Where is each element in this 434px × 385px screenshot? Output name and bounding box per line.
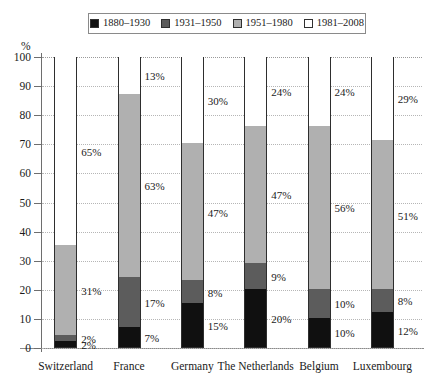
bar-segment-value-label: 13% [145,70,165,82]
y-axis-tick [34,290,41,291]
gridline [42,261,422,262]
gridline [42,86,422,87]
bar-segment[interactable] [182,280,203,303]
y-axis-tick-label: 20 [20,284,32,296]
bar-group: 20%9%47%24%The Netherlands [244,57,267,348]
y-axis-tick [34,348,41,349]
bar-segment[interactable] [119,277,140,326]
bar-segment[interactable] [372,289,393,312]
y-axis-tick [34,144,41,145]
bar-segment[interactable] [372,140,393,288]
bar-segment[interactable] [55,341,76,347]
bar-segment-value-label: 24% [335,86,355,98]
bar-group: 12%8%51%29%Luxembourg [371,57,394,348]
bar-segment-value-label: 63% [145,180,165,192]
gridline [42,319,422,320]
bar-segment[interactable] [182,143,203,280]
bar-segment[interactable] [245,126,266,263]
stacked-bar[interactable] [181,57,204,348]
bar-group: 15%8%47%30%Germany [181,57,204,348]
gridline [42,173,422,174]
chart-legend: 1880–1930 1931–1950 1951–1980 1981–2008 [88,13,366,34]
x-axis-category-label: The Netherlands [217,360,293,372]
bar-segment-value-label: 31% [81,285,101,297]
bar-segment-value-label: 2% [81,333,96,345]
bar-segment-value-label: 24% [271,86,291,98]
y-axis-tick-label: 100 [14,51,31,63]
y-axis-tick-label: 40 [20,226,32,238]
bar-segment[interactable] [182,303,203,347]
bar-segment-value-label: 7% [145,332,160,344]
stacked-bar[interactable] [371,57,394,348]
bar-segment[interactable] [245,56,266,126]
x-axis-category-label: Luxembourg [353,360,412,372]
bar-segment[interactable] [372,312,393,347]
legend-item-label: 1981–2008 [317,18,364,29]
bar-segment-value-label: 10% [335,327,355,339]
legend-swatch-icon [304,19,313,28]
bar-segment[interactable] [309,318,330,347]
y-axis-tick-label: 10 [20,313,32,325]
legend-item-1951-1980: 1951–1980 [233,18,293,29]
bar-segment-value-label: 30% [208,95,228,107]
y-axis-tick [34,115,41,116]
bar-segment[interactable] [309,289,330,318]
x-axis-category-label: Belgium [299,360,339,372]
bar-segment-value-label: 51% [398,210,418,222]
legend-swatch-icon [161,19,170,28]
y-axis-tick-label: 0 [25,342,31,354]
bar-segment-value-label: 56% [335,202,355,214]
bar-segment-value-label: 17% [145,297,165,309]
legend-item-label: 1880–1930 [103,18,150,29]
stacked-bar[interactable] [118,57,141,348]
y-axis-tick-label: 50 [20,197,32,209]
bar-segment[interactable] [119,56,140,94]
stacked-bar[interactable] [308,57,331,348]
y-axis-tick [34,57,41,58]
y-axis-tick [34,319,41,320]
y-axis-tick-label: 90 [20,80,32,92]
stacked-bar[interactable] [244,57,267,348]
bar-segment-value-label: 65% [81,146,101,158]
y-axis-tick [34,203,41,204]
bar-segment-value-label: 47% [271,189,291,201]
legend-item-1931-1950: 1931–1950 [161,18,221,29]
bar-segment[interactable] [119,94,140,277]
bar-segment-value-label: 10% [335,298,355,310]
bar-segment-value-label: 29% [398,93,418,105]
y-axis-tick-label: 30 [20,255,32,267]
bar-group: 10%10%56%24%Belgium [308,57,331,348]
bar-segment[interactable] [309,126,330,289]
legend-swatch-icon [233,19,242,28]
plot-area: 01020304050607080901002%2%31%65%Switzerl… [42,57,422,348]
bar-segment-value-label: 47% [208,207,228,219]
bar-segment[interactable] [309,56,330,126]
x-axis-category-label: Germany [171,360,214,372]
bar-segment[interactable] [55,56,76,245]
x-axis-category-label: Switzerland [38,360,93,372]
gridline [42,57,422,58]
bar-group: 7%17%63%13%France [118,57,141,348]
y-axis-tick-label: 70 [20,138,32,150]
bar-segment[interactable] [372,56,393,140]
gridline [42,348,422,349]
bar-segment-value-label: 15% [208,320,228,332]
x-axis-category-label: France [113,360,144,372]
bar-segment-value-label: 12% [398,325,418,337]
bar-segment-value-label: 20% [271,313,291,325]
bar-segment[interactable] [55,245,76,335]
bar-segment[interactable] [245,289,266,347]
bar-segment-value-label: 8% [398,295,413,307]
stacked-bar-chart: 1880–1930 1931–1950 1951–1980 1981–2008 … [0,0,434,385]
stacked-bar[interactable] [54,57,77,348]
gridline [42,115,422,116]
gridline [42,203,422,204]
bar-segment[interactable] [245,263,266,289]
bar-segment[interactable] [119,327,140,347]
y-axis-tick-label: 60 [20,167,32,179]
bar-segment[interactable] [55,335,76,341]
legend-item-label: 1951–1980 [246,18,293,29]
bar-group: 2%2%31%65%Switzerland [54,57,77,348]
bar-segment-value-label: 9% [271,271,286,283]
bar-segment[interactable] [182,56,203,143]
